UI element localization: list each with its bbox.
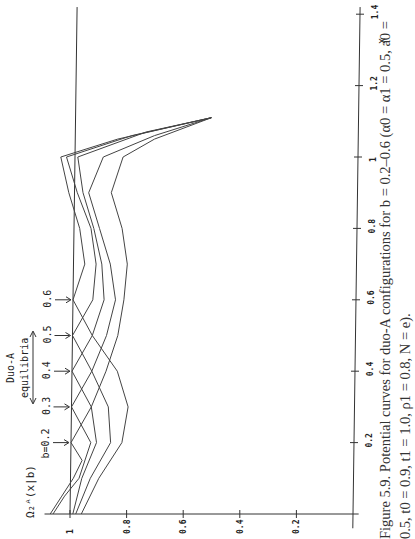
x-tick-label: 0.4 <box>366 362 375 377</box>
annotations: Ω₂ᴬ(x|b) Duo-A equilibria x b=0.20.30.40… <box>5 38 387 518</box>
x-tick-label: 0.2 <box>365 433 374 448</box>
y-tick-label: 0.6 <box>179 519 188 534</box>
y-tick-label: 0.4 <box>236 519 245 534</box>
b-label: 0.4 <box>41 361 52 379</box>
b-label: 0.3 <box>41 397 52 415</box>
axes: 0.20.40.60.811.21.40.20.40.60.81 <box>45 5 380 534</box>
b-label: b=0.2 <box>40 428 51 458</box>
curve-b-0.5 <box>67 118 212 514</box>
curve-b-0.4 <box>72 118 211 514</box>
y-axis-label: Ω₂ᴬ(x|b) <box>24 465 37 518</box>
y-tick-label: 1 <box>66 529 75 534</box>
y-tick-label: 0.8 <box>123 519 132 534</box>
curve-b-0.3 <box>53 118 211 514</box>
annotation-equilibria: equilibria <box>19 338 30 398</box>
y-tick-label: 0.2 <box>292 519 301 534</box>
b-label: 0.6 <box>42 290 53 308</box>
b-label: 0.5 <box>42 325 53 343</box>
annotation-duo-a: Duo-A <box>5 353 16 383</box>
figure-caption: Figure 5.9. Potential curves for duo-A c… <box>375 9 415 539</box>
